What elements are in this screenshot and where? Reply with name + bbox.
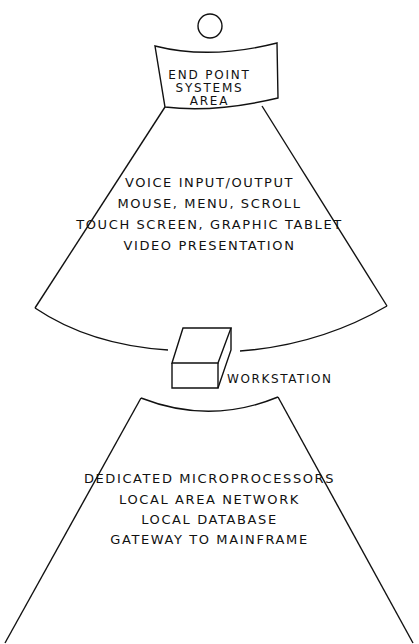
lower-fan-item: DEDICATED MICROPROCESSORS xyxy=(0,471,419,486)
endpoint-label-line-3: AREA xyxy=(0,94,419,108)
lower-fan-item: GATEWAY TO MAINFRAME xyxy=(0,532,419,547)
upper-fan-right-arc xyxy=(240,306,387,351)
workstation-box-icon xyxy=(172,328,231,388)
lower-fan-item: LOCAL AREA NETWORK xyxy=(0,492,419,507)
upper-fan-item: VIDEO PRESENTATION xyxy=(0,238,419,253)
upper-fan-item: TOUCH SCREEN, GRAPHIC TABLET xyxy=(0,217,419,232)
endpoint-label-line-1: END POINT xyxy=(0,68,419,82)
upper-fan-item: MOUSE, MENU, SCROLL xyxy=(0,196,419,211)
endpoint-circle-icon xyxy=(198,14,222,38)
upper-fan-item: VOICE INPUT/OUTPUT xyxy=(0,175,419,190)
endpoint-label-line-2: SYSTEMS xyxy=(0,81,419,95)
lower-fan-item: LOCAL DATABASE xyxy=(0,512,419,527)
upper-fan-left-arc xyxy=(35,308,168,350)
lower-fan-top-arc xyxy=(141,397,278,411)
workstation-label: WORKSTATION xyxy=(227,372,333,386)
